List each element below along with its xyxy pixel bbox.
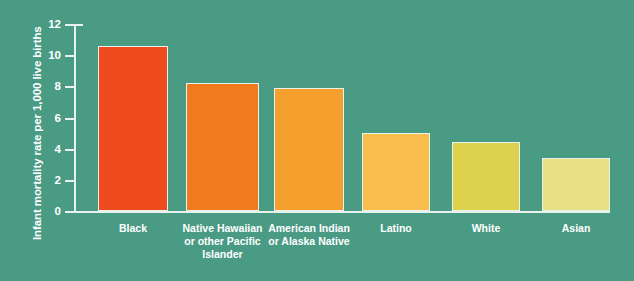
y-axis-tick-label: 8	[55, 80, 61, 92]
category-label-line: or Alaska Native	[260, 235, 358, 248]
y-axis-tick-label: 10	[48, 49, 61, 61]
bar	[98, 46, 168, 211]
x-axis-category-label: White	[438, 222, 534, 235]
bar-chart: Infant mortality rate per 1,000 live bir…	[0, 0, 634, 281]
category-label-line: Asian	[528, 222, 624, 235]
y-axis-tick-mark	[65, 211, 74, 213]
category-label-line: or other Pacific	[172, 235, 273, 248]
y-axis-line	[74, 24, 76, 213]
category-label-line: Black	[84, 222, 182, 235]
y-axis-tick-label: 2	[55, 174, 61, 186]
y-axis-tick-mark	[65, 180, 74, 182]
y-axis-tick-mark	[65, 118, 74, 120]
x-axis-category-labels: BlackNative Hawaiianor other PacificIsla…	[74, 222, 610, 278]
x-axis-category-label: American Indianor Alaska Native	[260, 222, 358, 248]
y-axis-title: Infant mortality rate per 1,000 live bir…	[26, 20, 48, 240]
bar	[186, 83, 259, 211]
y-axis-tick-mark	[65, 55, 74, 57]
bar	[274, 88, 344, 211]
x-axis-line	[74, 211, 610, 213]
bar	[542, 158, 610, 211]
category-label-line: Latino	[348, 222, 444, 235]
bar	[362, 133, 430, 211]
x-axis-category-label: Latino	[348, 222, 444, 235]
y-axis-tick-mark	[65, 24, 74, 26]
bar	[452, 142, 520, 211]
category-label-line: Native Hawaiian	[172, 222, 273, 235]
y-axis-tick-label: 4	[55, 143, 61, 155]
x-axis-category-label: Black	[84, 222, 182, 235]
x-axis-category-label: Asian	[528, 222, 624, 235]
category-label-line: White	[438, 222, 534, 235]
category-label-line: American Indian	[260, 222, 358, 235]
y-axis-tick-mark	[65, 149, 74, 151]
y-axis-top-cap	[74, 24, 83, 26]
x-axis-category-label: Native Hawaiianor other PacificIslander	[172, 222, 273, 261]
category-label-line: Islander	[172, 248, 273, 261]
plot-area: 024681012	[74, 24, 610, 213]
y-axis-tick-mark	[65, 86, 74, 88]
y-axis-tick-label: 6	[55, 112, 61, 124]
y-axis-tick-label: 0	[55, 205, 61, 217]
y-axis-tick-label: 12	[48, 18, 61, 30]
